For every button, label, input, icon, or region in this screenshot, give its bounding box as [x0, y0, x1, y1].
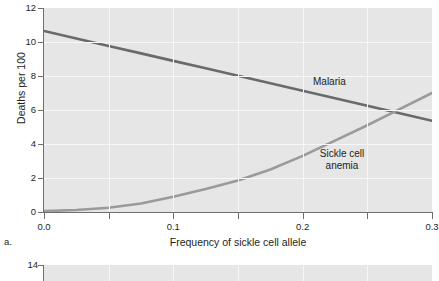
- x-axis-title: Frequency of sickle cell allele: [44, 236, 432, 248]
- y-axis-title: Deaths per 100: [15, 28, 27, 148]
- x-tick-label: 0.0: [24, 222, 64, 232]
- y-tick: [38, 42, 44, 43]
- x-tick: [44, 213, 45, 219]
- gridline-vertical: [238, 265, 239, 281]
- series-label-sickle-cell-anemia: Sickle cell anemia: [306, 148, 378, 172]
- y-tick: [38, 8, 44, 9]
- y-tick: [38, 178, 44, 179]
- x-tick-label: 0.3: [412, 222, 439, 232]
- gridline-vertical: [109, 8, 110, 212]
- y-tick: [38, 144, 44, 145]
- panel-a: 12 10 8 6 4 2 0 0.0 0.1 0.2 0.3 Deaths p…: [0, 0, 439, 250]
- x-tick: [303, 213, 304, 219]
- x-tick: [173, 213, 174, 219]
- gridline-vertical: [238, 8, 239, 212]
- y-axis-line-b: [43, 265, 44, 281]
- panel-label-a: a.: [4, 236, 12, 247]
- y-tick-label: 2: [12, 173, 36, 183]
- y-tick-b: [38, 265, 44, 266]
- x-tick: [367, 213, 368, 219]
- gridline-vertical: [367, 265, 368, 281]
- y-tick-label: 0: [12, 207, 36, 217]
- x-tick-label: 0.1: [153, 222, 193, 232]
- panel-b: 14: [0, 258, 439, 274]
- gridline-vertical: [173, 265, 174, 281]
- gridline-vertical: [303, 265, 304, 281]
- x-tick: [238, 213, 239, 219]
- x-tick: [109, 213, 110, 219]
- x-tick: [432, 213, 433, 219]
- series-label-malaria: Malaria: [313, 76, 346, 88]
- gridline-vertical: [367, 8, 368, 212]
- y-tick-label: 12: [12, 3, 36, 13]
- x-tick-label: 0.2: [283, 222, 323, 232]
- gridline-vertical: [109, 265, 110, 281]
- y-tick-label-b: 14: [18, 260, 38, 270]
- y-tick: [38, 76, 44, 77]
- plot-area: [44, 8, 432, 212]
- y-tick: [38, 110, 44, 111]
- plot-area-b: [44, 265, 432, 281]
- gridline-vertical: [303, 8, 304, 212]
- gridline-vertical: [173, 8, 174, 212]
